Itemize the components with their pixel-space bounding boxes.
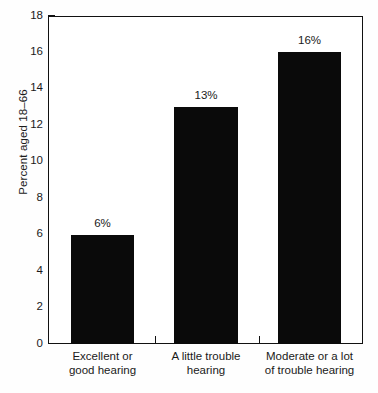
- bar-value-label: 16%: [280, 34, 340, 46]
- x-axis-category-label-line: Excellent or: [43, 350, 163, 364]
- bar: [278, 52, 341, 344]
- y-axis-tick-label: 12: [19, 118, 43, 130]
- x-axis-category-label-line: of trouble hearing: [250, 364, 370, 378]
- bar-value-label: 13%: [176, 89, 236, 101]
- y-axis-tick-label: 4: [19, 264, 43, 276]
- y-axis-tick-label: 2: [19, 300, 43, 312]
- y-axis-tick-label: 8: [19, 191, 43, 203]
- x-axis-category-label: Excellent orgood hearing: [43, 350, 163, 377]
- x-axis-category-label: Moderate or a lotof trouble hearing: [250, 350, 370, 377]
- y-axis-tick-label: 10: [19, 154, 43, 166]
- y-axis-tick-label: 14: [19, 81, 43, 93]
- x-axis-category-label-line: hearing: [146, 364, 266, 378]
- y-axis-tick-label: 18: [19, 9, 43, 21]
- y-axis-tick-label: 16: [19, 45, 43, 57]
- bar: [174, 107, 238, 344]
- bar-chart-figure: Percent aged 18–66 024681012141618 6%13%…: [0, 0, 378, 393]
- x-axis-category-label: A little troublehearing: [146, 350, 266, 377]
- x-axis-category-label-line: Moderate or a lot: [250, 350, 370, 364]
- bars-layer: 6%13%16%: [48, 16, 363, 344]
- x-axis-category-label-line: good hearing: [43, 364, 163, 378]
- x-axis-tick: [155, 336, 156, 344]
- y-axis-tick-label: 6: [19, 227, 43, 239]
- bar-value-label: 6%: [73, 217, 133, 229]
- x-axis-tick: [259, 336, 260, 344]
- x-axis-category-label-line: A little trouble: [146, 350, 266, 364]
- y-axis-tick-label: 0: [19, 337, 43, 349]
- bar: [71, 235, 134, 344]
